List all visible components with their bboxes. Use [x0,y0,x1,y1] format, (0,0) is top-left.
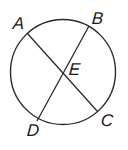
point-label-d: D [26,122,39,139]
point-label-a: A [12,15,25,32]
point-label-e: E [68,61,81,78]
point-label-b: B [91,10,104,27]
point-label-c: C [100,112,113,129]
circle [11,20,116,125]
chord-bd [37,26,89,121]
chord-ac [27,33,98,112]
circle-chords-diagram: A B E C D [0,0,128,150]
